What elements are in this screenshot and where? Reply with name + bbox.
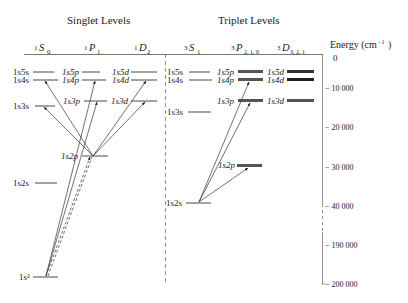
energy-level-diagram: Singlet Levels Triplet Levels 1 S 0 1 P …: [0, 0, 408, 303]
singlet-transitions: [44, 81, 146, 276]
svg-text:1: 1: [84, 44, 88, 52]
svg-text:1s3p: 1s3p: [63, 96, 81, 106]
svg-text:1s2s: 1s2s: [166, 198, 183, 208]
tick-10000: − 10 000: [325, 84, 354, 93]
column-header-3P210: 3 P 2, 1, 0: [231, 42, 259, 55]
triplet-levels: [186, 70, 314, 203]
singlet-levels: [33, 72, 157, 277]
svg-text:S: S: [39, 42, 45, 53]
svg-text:1s4p: 1s4p: [62, 75, 80, 85]
svg-text:1s2s: 1s2s: [13, 178, 30, 188]
tick-30000: − 30 000: [325, 163, 354, 172]
svg-text:1s2p: 1s2p: [218, 160, 236, 170]
svg-text:S: S: [189, 42, 195, 53]
svg-text:3: 3: [277, 44, 281, 52]
tick-0: 0: [333, 53, 338, 63]
singlet-title: Singlet Levels: [67, 14, 130, 26]
energy-axis-title: Energy (cm −1 ): [330, 39, 391, 51]
tick-20000: − 20 000: [325, 123, 354, 132]
svg-text:1: 1: [34, 44, 38, 52]
svg-text:P: P: [88, 42, 96, 53]
svg-text:1s3d: 1s3d: [111, 96, 129, 106]
column-header-1D2: 1 D 2: [134, 42, 151, 56]
svg-text:1s3s: 1s3s: [167, 107, 184, 117]
svg-text:1s4s: 1s4s: [167, 75, 184, 85]
triplet-level-labels: 1s5s 1s4s 1s3s 1s2s 1s5p 1s4p 1s3p 1s2p …: [166, 67, 285, 208]
column-header-1P1: 1 P 1: [84, 42, 101, 56]
svg-text:1s3s: 1s3s: [13, 101, 30, 111]
svg-text:−1: −1: [378, 39, 384, 45]
svg-text:): ): [388, 39, 391, 51]
svg-text:1s²: 1s²: [19, 272, 30, 282]
column-header-1S0: 1 S 0: [34, 42, 51, 56]
svg-text:Energy (cm: Energy (cm: [330, 39, 377, 51]
tick-40000: − 40 000: [325, 202, 354, 211]
column-header-3D321: 3 D 3, 2, 1: [277, 42, 305, 55]
column-header-3S1: 3 S 1: [184, 42, 201, 56]
svg-text:1s4p: 1s4p: [217, 75, 235, 85]
svg-text:1s4d: 1s4d: [267, 75, 285, 85]
svg-text:1: 1: [134, 44, 138, 52]
svg-text:1s4s: 1s4s: [13, 75, 30, 85]
svg-text:P: P: [235, 42, 243, 53]
svg-text:3: 3: [231, 44, 235, 52]
tick-190000: − 190 000: [325, 241, 358, 250]
svg-text:1s3d: 1s3d: [267, 96, 285, 106]
svg-text:D: D: [281, 42, 290, 53]
triplet-title: Triplet Levels: [218, 14, 280, 26]
tick-200000: − 200 000: [325, 280, 358, 289]
svg-text:D: D: [138, 42, 147, 53]
svg-text:1s3p: 1s3p: [217, 96, 235, 106]
svg-text:1s4d: 1s4d: [112, 75, 130, 85]
energy-axis-ticks: 0 − 10 000 − 20 000 − 30 000 − 40 000 − …: [325, 53, 358, 289]
svg-text:3: 3: [184, 44, 188, 52]
